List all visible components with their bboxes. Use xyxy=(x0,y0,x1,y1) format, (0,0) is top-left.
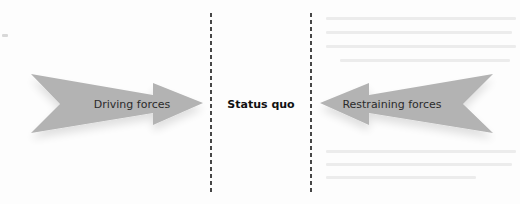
restraining-forces-label: Restraining forces xyxy=(342,99,441,110)
driving-forces-label: Driving forces xyxy=(94,99,171,110)
status-quo-label: Status quo xyxy=(227,99,294,110)
diagram-canvas: Driving forces Status quo Restraining fo… xyxy=(0,0,520,204)
